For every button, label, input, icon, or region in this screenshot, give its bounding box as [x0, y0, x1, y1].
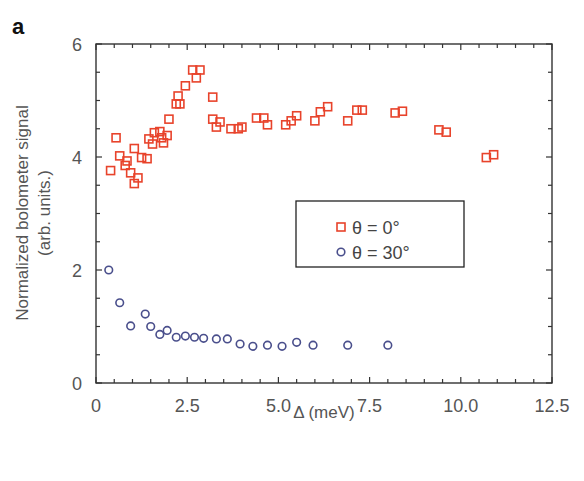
circle-marker-icon [147, 323, 155, 331]
circle-marker-icon [213, 335, 221, 343]
x-tick-label: 12.5 [534, 396, 569, 416]
circle-marker-icon [278, 342, 286, 350]
circle-marker-icon [127, 322, 135, 330]
square-marker-icon [181, 82, 189, 90]
circle-marker-icon [293, 339, 301, 347]
square-marker-icon [112, 134, 120, 142]
circle-marker-icon [172, 333, 180, 341]
square-marker-icon [174, 92, 182, 100]
y-axis-label-line1: Normalized bolometer signal [13, 105, 32, 320]
x-tick-label: 7.5 [357, 396, 382, 416]
y-axis-label-line2: (arb. units.) [35, 170, 54, 256]
circle-marker-icon [105, 266, 113, 274]
square-marker-icon [311, 117, 319, 125]
circle-marker-icon [384, 341, 392, 349]
square-marker-icon [209, 93, 217, 101]
circle-marker-icon [264, 341, 272, 349]
circle-marker-icon [224, 335, 232, 343]
circle-marker-icon [116, 299, 124, 307]
y-tick-label: 4 [72, 148, 82, 168]
square-marker-icon [192, 74, 200, 82]
square-marker-icon [344, 117, 352, 125]
circle-marker-icon [236, 340, 244, 348]
legend-label-theta-0: θ = 0° [352, 218, 400, 238]
square-marker-icon [293, 112, 301, 120]
scatter-chart: 02.55.07.510.012.50246 θ = 0° θ = 30° Δ … [0, 0, 584, 481]
x-tick-label: 2.5 [175, 396, 200, 416]
circle-marker-icon [200, 335, 208, 343]
y-tick-label: 6 [72, 35, 82, 55]
legend-label-theta-30: θ = 30° [352, 243, 410, 263]
y-tick-label: 2 [72, 261, 82, 281]
legend: θ = 0° θ = 30° [296, 201, 464, 267]
x-tick-label: 10.0 [443, 396, 478, 416]
square-marker-icon [165, 115, 173, 123]
x-tick-label: 0 [91, 396, 101, 416]
circle-marker-icon [182, 332, 190, 340]
x-tick-label: 5.0 [266, 396, 291, 416]
circle-marker-icon [163, 327, 171, 335]
square-marker-icon [358, 106, 366, 114]
circle-marker-icon [249, 342, 257, 350]
square-marker-icon [353, 106, 361, 114]
circle-marker-icon [309, 341, 317, 349]
y-tick-label: 0 [72, 374, 82, 394]
x-axis-label: Δ (meV) [293, 403, 354, 422]
square-marker-icon [130, 145, 138, 153]
circle-marker-icon [141, 310, 149, 318]
square-marker-icon [107, 167, 115, 175]
circle-marker-icon [156, 331, 164, 339]
circle-marker-icon [344, 341, 352, 349]
circle-marker-icon [191, 333, 199, 341]
